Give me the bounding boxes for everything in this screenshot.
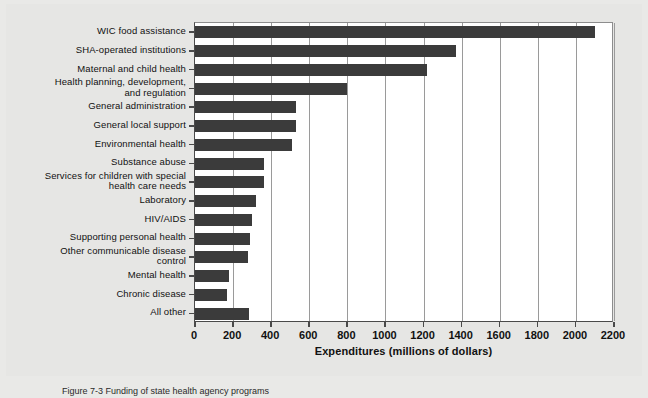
y-axis-tick — [189, 144, 194, 146]
y-axis-tick — [189, 125, 194, 127]
x-axis-tick-label: 1800 — [517, 329, 557, 341]
bar — [195, 158, 264, 170]
bar-row — [195, 158, 614, 170]
gridline — [614, 23, 615, 321]
bar-row — [195, 289, 614, 301]
x-axis-tick — [613, 322, 615, 327]
x-axis-tick-label: 1200 — [403, 329, 443, 341]
plot-area — [194, 22, 613, 322]
x-axis-tick — [194, 322, 196, 327]
x-axis-tick-label: 400 — [250, 329, 290, 341]
x-axis-tick-label: 1000 — [364, 329, 404, 341]
y-axis-tick — [189, 163, 194, 165]
x-axis-tick — [308, 322, 310, 327]
y-axis-label: All other — [0, 307, 186, 318]
x-axis-tick — [346, 322, 348, 327]
y-axis-label: Supporting personal health — [0, 232, 186, 243]
x-axis-tick-label: 2000 — [555, 329, 595, 341]
y-axis-tick — [189, 294, 194, 296]
y-axis-label: HIV/AIDS — [0, 214, 186, 225]
y-axis-label: Laboratory — [0, 195, 186, 206]
y-axis-tick — [189, 238, 194, 240]
bar-row — [195, 26, 614, 38]
y-axis-tick — [189, 31, 194, 33]
y-axis-tick — [189, 256, 194, 258]
y-axis-label: Mental health — [0, 270, 186, 281]
y-axis-label: General local support — [0, 120, 186, 131]
x-axis-tick-label: 600 — [288, 329, 328, 341]
y-axis-label: Health planning, development, and regula… — [0, 77, 186, 98]
bar-row — [195, 233, 614, 245]
x-axis-tick — [461, 322, 463, 327]
y-axis-label: General administration — [0, 101, 186, 112]
bar — [195, 289, 227, 301]
bar — [195, 233, 250, 245]
bar-row — [195, 270, 614, 282]
y-axis-label: Services for children with special healt… — [0, 171, 186, 192]
figure-frame: WIC food assistanceSHA-operated institut… — [0, 0, 648, 398]
x-axis-tick-label: 2200 — [593, 329, 633, 341]
y-axis-label: Other communicable disease control — [0, 246, 186, 267]
y-axis-tick — [189, 69, 194, 71]
bar — [195, 270, 229, 282]
y-axis-label: Maternal and child health — [0, 64, 186, 75]
bar-row — [195, 308, 614, 320]
y-axis-tick — [189, 275, 194, 277]
y-axis-label: Chronic disease — [0, 289, 186, 300]
x-axis-tick-label: 200 — [212, 329, 252, 341]
bar — [195, 101, 296, 113]
x-axis-tick — [575, 322, 577, 327]
y-axis-tick — [189, 200, 194, 202]
bar — [195, 214, 252, 226]
bar-row — [195, 101, 614, 113]
bar — [195, 139, 292, 151]
bar-row — [195, 176, 614, 188]
bar-chart: WIC food assistanceSHA-operated institut… — [0, 0, 648, 398]
x-axis-title: Expenditures (millions of dollars) — [194, 345, 613, 357]
bar-row — [195, 139, 614, 151]
bar — [195, 120, 296, 132]
y-axis-tick — [189, 106, 194, 108]
y-axis-tick — [189, 181, 194, 183]
bar — [195, 195, 256, 207]
y-axis-tick — [189, 219, 194, 221]
x-axis-tick — [537, 322, 539, 327]
figure-caption: Figure 7-3 Funding of state health agenc… — [62, 386, 622, 398]
x-axis-tick — [270, 322, 272, 327]
x-axis-tick-label: 1600 — [479, 329, 519, 341]
x-axis-tick — [499, 322, 501, 327]
bar-row — [195, 120, 614, 132]
y-axis-tick — [189, 313, 194, 315]
x-axis-tick — [423, 322, 425, 327]
bar — [195, 251, 248, 263]
y-axis-label: SHA-operated institutions — [0, 45, 186, 56]
y-axis-tick — [189, 88, 194, 90]
bar-row — [195, 64, 614, 76]
y-axis-label: WIC food assistance — [0, 26, 186, 37]
bar — [195, 176, 264, 188]
bar — [195, 26, 595, 38]
bar-row — [195, 83, 614, 95]
bar-row — [195, 251, 614, 263]
x-axis-tick-label: 1400 — [441, 329, 481, 341]
bar — [195, 308, 249, 320]
y-axis-tick — [189, 50, 194, 52]
bar-row — [195, 214, 614, 226]
y-axis-label: Environmental health — [0, 139, 186, 150]
bar-row — [195, 195, 614, 207]
bar — [195, 64, 427, 76]
x-axis-tick-label: 800 — [326, 329, 366, 341]
bar-row — [195, 45, 614, 57]
bar — [195, 45, 456, 57]
x-axis-tick — [384, 322, 386, 327]
x-axis-tick — [232, 322, 234, 327]
y-axis-label: Substance abuse — [0, 157, 186, 168]
y-axis-labels: WIC food assistanceSHA-operated institut… — [0, 0, 186, 398]
bar — [195, 83, 347, 95]
x-axis-tick-label: 0 — [174, 329, 214, 341]
